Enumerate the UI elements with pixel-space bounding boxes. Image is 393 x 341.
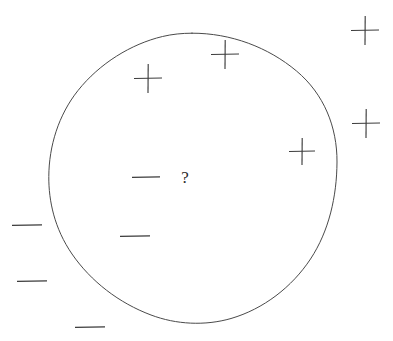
plus-inside-upper-left-icon — [134, 64, 162, 93]
concept-diagram: ? — [0, 0, 393, 341]
figure-canvas: ? — [0, 0, 393, 341]
minus-inside-lower-left-icon — [120, 236, 150, 237]
plus-outside-right-icon — [352, 109, 380, 138]
query-symbol: ? — [181, 168, 189, 187]
concept-boundary-group — [49, 33, 337, 323]
minus-outside-left-upper-icon — [12, 225, 42, 226]
plus-inside-top-icon — [211, 40, 239, 69]
minus-outside-left-lower-icon — [17, 281, 47, 282]
plus-marks-group — [134, 16, 380, 165]
minus-outside-bottom-icon — [75, 327, 105, 328]
concept-boundary-circle — [49, 33, 337, 323]
plus-outside-top-right-icon — [351, 16, 379, 45]
minus-inside-center-icon — [132, 177, 160, 178]
minus-marks-group — [12, 177, 160, 327]
plus-inside-right-icon — [289, 138, 315, 165]
